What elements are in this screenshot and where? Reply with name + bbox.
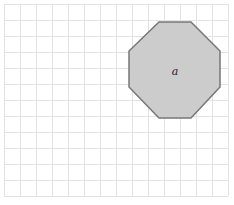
shape-label-a: a <box>172 65 179 78</box>
diagram-canvas <box>0 0 234 205</box>
